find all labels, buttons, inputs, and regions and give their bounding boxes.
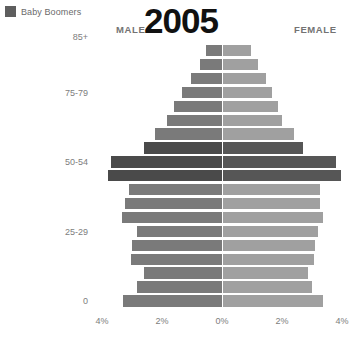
x-axis-tick-label: 2% [155, 316, 168, 326]
bar-row [0, 212, 362, 223]
bar-male [144, 142, 222, 153]
bar-row [0, 240, 362, 251]
bar-female [222, 184, 320, 195]
bar-male [174, 101, 222, 112]
bar-row [0, 254, 362, 265]
y-axis-tick-label: 85+ [73, 32, 88, 42]
bar-row [0, 226, 362, 237]
bar-female [222, 156, 336, 167]
bar-female [222, 45, 251, 56]
bar-female [222, 115, 282, 126]
bar-row [0, 295, 362, 306]
bar-male [108, 170, 222, 181]
bar-male [129, 184, 222, 195]
bar-female [222, 128, 294, 139]
x-axis-tick-label: 4% [335, 316, 348, 326]
bar-row [0, 45, 362, 56]
x-axis-tick-label: 4% [95, 316, 108, 326]
bar-female [222, 212, 323, 223]
x-axis-tick-label: 2% [275, 316, 288, 326]
bar-row [0, 87, 362, 98]
bar-female [222, 254, 314, 265]
bar-male [131, 254, 223, 265]
bar-female [222, 240, 315, 251]
bar-male [111, 156, 222, 167]
bar-male [137, 226, 223, 237]
bar-female [222, 170, 341, 181]
bar-male [132, 240, 222, 251]
bar-female [222, 87, 272, 98]
bar-male [137, 281, 223, 292]
bar-male [206, 45, 223, 56]
bar-row [0, 281, 362, 292]
bar-row [0, 128, 362, 139]
bar-male [200, 59, 223, 70]
bar-row [0, 198, 362, 209]
population-pyramid-chart: Baby Boomers 2005 MALE FEMALE 85+75-7950… [0, 0, 362, 345]
bar-female [222, 59, 258, 70]
female-column-header: FEMALE [294, 24, 337, 35]
bar-male [122, 212, 223, 223]
bar-row [0, 142, 362, 153]
bar-row [0, 73, 362, 84]
bar-male [167, 115, 223, 126]
plot-area [0, 45, 362, 313]
bar-row [0, 101, 362, 112]
center-axis-line [222, 45, 223, 313]
bar-row [0, 115, 362, 126]
male-column-header: MALE [116, 24, 145, 35]
bar-female [222, 142, 303, 153]
bar-row [0, 267, 362, 278]
bar-male [123, 295, 222, 306]
bar-male [182, 87, 223, 98]
bar-female [222, 101, 278, 112]
bar-male [155, 128, 223, 139]
bar-row [0, 59, 362, 70]
x-axis: 4%2%0%2%4% [0, 316, 362, 332]
bar-female [222, 295, 323, 306]
bar-male [144, 267, 222, 278]
bar-female [222, 267, 308, 278]
bar-female [222, 281, 312, 292]
bar-female [222, 198, 320, 209]
x-axis-tick-label: 0% [215, 316, 228, 326]
bar-female [222, 226, 318, 237]
bar-male [125, 198, 223, 209]
bar-female [222, 73, 266, 84]
bar-row [0, 184, 362, 195]
bar-male [191, 73, 223, 84]
bar-row [0, 156, 362, 167]
bar-row [0, 170, 362, 181]
